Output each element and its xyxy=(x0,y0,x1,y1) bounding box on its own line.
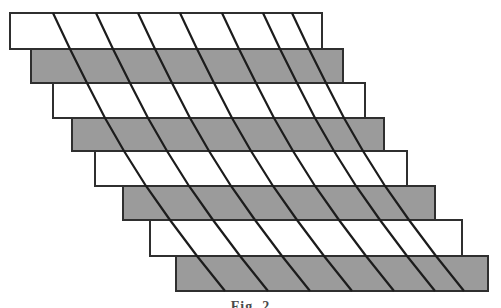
parallelogram-strips-figure xyxy=(0,0,501,308)
figure-caption: Fig. 2 xyxy=(0,299,501,308)
strip-row-4-gray xyxy=(72,118,384,151)
strip-rows xyxy=(10,13,488,291)
strip-row-1-white xyxy=(10,13,322,49)
strip-row-3-white xyxy=(53,83,365,118)
strip-row-7-white xyxy=(150,220,462,256)
figure-page: Fig. 2 xyxy=(0,0,501,308)
